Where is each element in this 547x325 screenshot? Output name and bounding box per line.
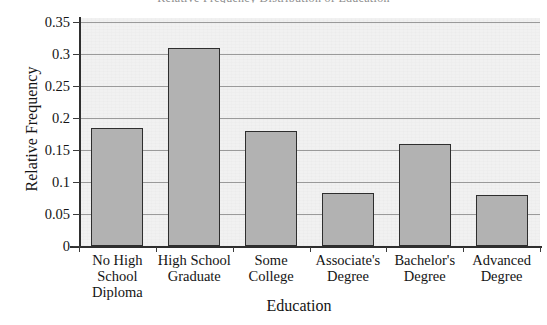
gridline [79, 182, 540, 183]
x-axis-tick-mark [310, 247, 311, 252]
y-axis-tick-label: 0.05 [26, 207, 70, 222]
x-axis-category-label-line: Advanced [457, 252, 546, 268]
x-axis-tick-mark [233, 247, 234, 252]
x-axis-category-label-line: Associate's [304, 252, 393, 268]
gridline [79, 214, 540, 215]
y-axis-tick-label: 0.1 [26, 175, 70, 190]
x-axis-category-label-line: Graduate [150, 268, 239, 284]
gridline [79, 22, 540, 23]
x-axis-tick-mark [386, 247, 387, 252]
gridline [79, 54, 540, 55]
x-axis-category-labels: No HighSchoolDiplomaHigh SchoolGraduateS… [79, 252, 547, 302]
y-axis-tick-mark [73, 54, 80, 55]
x-axis-tick-mark [540, 247, 541, 252]
x-axis-category-label: Bachelor'sDegree [380, 252, 469, 284]
chart-title: Relative Frequency Distribution of Educa… [0, 0, 547, 3]
x-axis-category-label-line: School [73, 268, 162, 284]
bar [476, 195, 528, 246]
x-axis-category-label-line: Degree [457, 268, 546, 284]
bar [399, 144, 451, 246]
gridline [79, 86, 540, 87]
x-axis-tick-mark [463, 247, 464, 252]
gridline [79, 118, 540, 119]
y-axis-tick-mark [73, 214, 80, 215]
x-axis-category-label-line: College [227, 268, 316, 284]
bar [91, 128, 143, 246]
y-axis-tick-labels: 00.050.10.150.20.250.30.35 [20, 0, 70, 325]
x-axis-category-label: AdvancedDegree [457, 252, 546, 284]
y-axis-tick-mark [73, 22, 80, 23]
y-axis-tick-mark [73, 182, 80, 183]
gridline [79, 150, 540, 151]
y-axis-tick-label: 0.35 [26, 15, 70, 30]
x-axis-category-label-line: Degree [304, 268, 393, 284]
x-axis-category-label: Associate'sDegree [304, 252, 393, 284]
x-axis-category-label-line: High School [150, 252, 239, 268]
y-axis-tick-label: 0 [26, 239, 70, 254]
x-axis-tick-mark [156, 247, 157, 252]
x-axis-category-label: High SchoolGraduate [150, 252, 239, 284]
plot-background-texture [79, 18, 540, 246]
x-axis-line [70, 246, 542, 248]
bar [245, 131, 297, 246]
y-axis-tick-label: 0.2 [26, 111, 70, 126]
x-axis-category-label: No HighSchoolDiploma [73, 252, 162, 300]
x-axis-category-label-line: Bachelor's [380, 252, 469, 268]
bar-chart-figure: Relative Frequency Distribution of Educa… [0, 0, 547, 325]
bar [322, 193, 374, 246]
bar [168, 48, 220, 246]
y-axis-tick-mark [73, 118, 80, 119]
x-axis-category-label-line: No High [73, 252, 162, 268]
plot-area [79, 18, 540, 246]
y-axis-tick-label: 0.3 [26, 47, 70, 62]
x-axis-category-label-line: Degree [380, 268, 469, 284]
x-axis-category-label-line: Some [227, 252, 316, 268]
x-axis-title: Education [79, 297, 519, 315]
x-axis-category-label: SomeCollege [227, 252, 316, 284]
y-axis-tick-mark [73, 86, 80, 87]
y-axis-tick-mark [73, 150, 80, 151]
y-axis-tick-label: 0.15 [26, 143, 70, 158]
y-axis-line [79, 17, 81, 247]
y-axis-tick-label: 0.25 [26, 79, 70, 94]
x-axis-tick-mark [79, 247, 80, 252]
